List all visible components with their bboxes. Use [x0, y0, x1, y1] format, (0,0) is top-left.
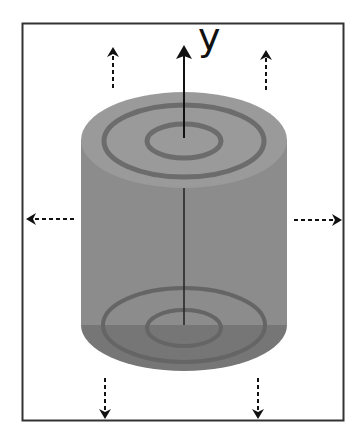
- y-axis-label: y: [198, 15, 221, 59]
- cylinder-diagram: y: [0, 0, 359, 439]
